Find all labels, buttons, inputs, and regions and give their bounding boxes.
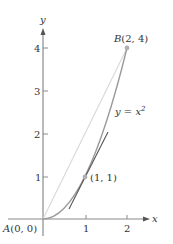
point-b-label: B(2, 4)	[113, 33, 148, 44]
y-axis-label: y	[39, 14, 46, 25]
x-axis	[8, 215, 150, 222]
x-axis-label: x	[152, 213, 158, 224]
x-tick-1: 1	[83, 223, 89, 234]
point-a-label: A(0, 0)	[2, 223, 37, 234]
x-tick-2: 2	[124, 223, 130, 234]
y-tick-1: 1	[35, 172, 41, 183]
y-tick-2: 2	[34, 129, 40, 140]
point-p-label: (1, 1)	[90, 172, 117, 183]
y-axis	[41, 28, 49, 236]
chord-ab	[43, 48, 127, 219]
curve-label: y = x2	[114, 105, 146, 117]
point-p	[83, 175, 88, 180]
point-b	[125, 46, 130, 51]
parabola-diagram: y x 4 3 2 1 1 2 A(0, 0) B(2, 4) (1, 1) y…	[0, 0, 173, 244]
x-axis-arrow-icon	[143, 217, 150, 222]
y-tick-3: 3	[34, 86, 40, 97]
y-axis-arrow-icon	[41, 28, 46, 35]
y-tick-4: 4	[34, 43, 40, 54]
tangent-line	[69, 132, 108, 209]
